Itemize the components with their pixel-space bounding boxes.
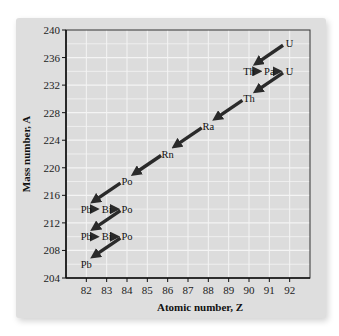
y-tick-label: 208 — [44, 244, 61, 256]
x-tick-label: 85 — [142, 284, 154, 296]
x-tick-label: 90 — [244, 284, 256, 296]
x-tick-label: 91 — [264, 284, 275, 296]
decay-chain-chart: 8283848586878889909192 20420821221622022… — [0, 0, 339, 336]
y-axis-title: Mass number, A — [20, 116, 32, 192]
x-tick-label: 84 — [122, 284, 134, 296]
nuclide-label: Bi — [102, 204, 112, 215]
nuclide-label: Po — [121, 176, 132, 187]
nuclide-label: Pb — [81, 204, 92, 215]
x-tick-label: 83 — [101, 284, 113, 296]
nuclide-label: Po — [121, 231, 132, 242]
x-tick-label: 92 — [284, 284, 295, 296]
nuclide-label: Ra — [202, 121, 214, 132]
x-tick-label: 87 — [183, 284, 195, 296]
nuclide-label: Pb — [81, 259, 92, 270]
nuclide-label: U — [286, 38, 294, 49]
x-tick-label: 82 — [81, 284, 92, 296]
y-tick-label: 224 — [44, 134, 61, 146]
y-tick-label: 220 — [44, 162, 61, 174]
nuclide-label: Th — [243, 93, 255, 104]
x-tick-label: 89 — [223, 284, 235, 296]
y-tick-label: 212 — [44, 217, 61, 229]
x-axis-ticks: 8283848586878889909192 — [81, 278, 295, 296]
nuclide-label: Pa — [264, 66, 275, 77]
nuclide-label: Rn — [162, 149, 175, 160]
y-tick-label: 236 — [44, 52, 61, 64]
nuclide-label: Th — [243, 66, 255, 77]
x-tick-label: 88 — [203, 284, 215, 296]
nuclide-label: Bi — [102, 231, 112, 242]
y-tick-label: 228 — [44, 107, 61, 119]
x-axis-title: Atomic number, Z — [157, 301, 243, 313]
y-tick-label: 240 — [44, 24, 61, 36]
y-tick-label: 216 — [44, 189, 61, 201]
y-tick-label: 204 — [44, 272, 61, 284]
x-tick-label: 86 — [162, 284, 174, 296]
y-axis-ticks: 204208212216220224228232236240 — [44, 24, 67, 284]
nuclide-label: Po — [121, 204, 132, 215]
nuclide-label: U — [286, 66, 294, 77]
y-tick-label: 232 — [44, 79, 61, 91]
nuclide-label: Pb — [81, 231, 92, 242]
